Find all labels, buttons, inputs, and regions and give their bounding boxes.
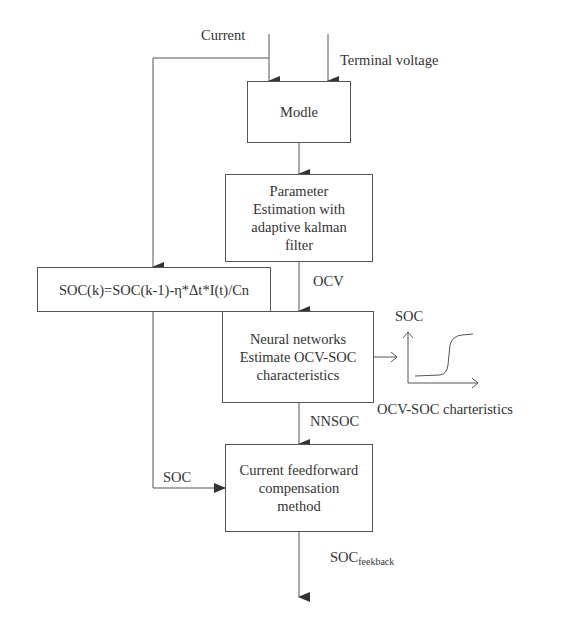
nn-line-1: Neural networks (250, 330, 346, 348)
ocv-label: OCV (313, 273, 344, 289)
parameter-line-4: filter (285, 236, 313, 254)
current-label: Current (201, 27, 245, 43)
terminal-voltage-label: Terminal voltage (340, 52, 438, 68)
mini-chart-axes (403, 332, 478, 388)
nn-line-2: Estimate OCV-SOC (240, 348, 357, 366)
soc-arrow (153, 311, 225, 488)
neural-networks-box: Neural networks Estimate OCV-SOC charact… (222, 311, 374, 403)
nn-line-3: characteristics (257, 366, 340, 384)
ocv-soc-curve (415, 334, 473, 376)
mini-chart-caption: OCV-SOC charteristics (377, 401, 513, 417)
model-box: Modle (247, 81, 351, 143)
parameter-line-1: Parameter (270, 182, 329, 200)
comp-line-3: method (277, 497, 321, 515)
parameter-estimation-box: Parameter Estimation with adaptive kalma… (225, 174, 373, 262)
compensation-box: Current feedforward compensation method (225, 444, 373, 532)
soc-formula-box: SOC(k)=SOC(k-1)-η*Δt*I(t)/Cn (37, 267, 271, 312)
mini-chart-y-label: SOC (395, 308, 423, 324)
nnsoc-label: NNSOC (310, 413, 359, 429)
parameter-line-2: Estimation with (253, 200, 345, 218)
parameter-line-3: adaptive kalman (251, 218, 346, 236)
soc-feedback-label: SOCfeekback (330, 549, 394, 570)
comp-line-1: Current feedforward (240, 461, 359, 479)
soc-label: SOC (163, 469, 191, 485)
soc-formula-text: SOC(k)=SOC(k-1)-η*Δt*I(t)/Cn (59, 281, 249, 299)
comp-line-2: compensation (259, 479, 340, 497)
soc-feedback-main: SOC (330, 549, 358, 565)
soc-feedback-subscript: feekback (358, 556, 394, 567)
model-box-text: Modle (280, 103, 318, 121)
